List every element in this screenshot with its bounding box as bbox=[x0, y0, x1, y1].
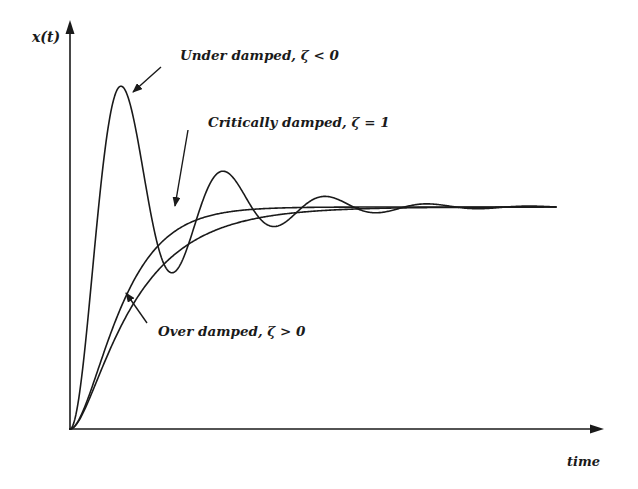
annotations: Under damped, ζ < 0 Critically damped, ζ… bbox=[126, 47, 390, 339]
under-damped-arrow-icon bbox=[133, 67, 161, 92]
damping-response-chart: x(t) time Under damped, ζ < 0 Critically… bbox=[0, 0, 638, 489]
critically-damped-label: Critically damped, ζ = 1 bbox=[208, 114, 390, 130]
under-damped-curve bbox=[70, 86, 556, 429]
over-damped-label: Over damped, ζ > 0 bbox=[158, 323, 306, 339]
y-axis-arrow-icon bbox=[66, 20, 75, 34]
critically-damped-arrow-icon bbox=[175, 130, 188, 206]
curves bbox=[70, 86, 556, 429]
y-axis-label: x(t) bbox=[31, 29, 60, 45]
under-damped-label: Under damped, ζ < 0 bbox=[180, 47, 339, 63]
x-axis-label: time bbox=[567, 454, 600, 469]
axes bbox=[66, 20, 605, 434]
x-axis-arrow-icon bbox=[590, 425, 604, 434]
